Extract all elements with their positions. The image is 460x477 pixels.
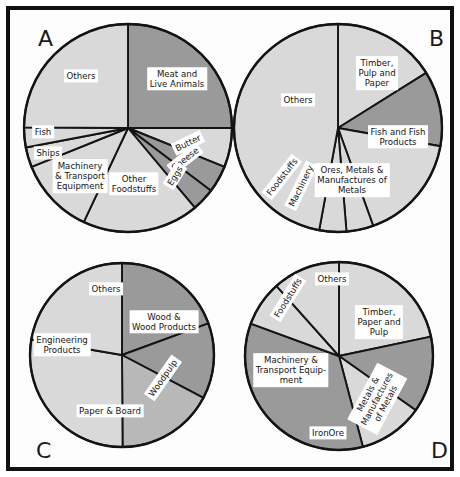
figure-frame: A B C D Meat and Live AnimalsButterChees…	[6, 6, 454, 471]
pie-slice-label: Others	[90, 283, 123, 295]
panel-letter-c: C	[36, 440, 52, 462]
panel-letter-b: B	[429, 28, 445, 50]
pie-slice-label: Meat and Live Animals	[148, 68, 207, 90]
pie-slice-label: Wood & Wood Products	[130, 311, 198, 333]
pie-slice-label: Timber, Pulp and Paper	[356, 57, 397, 90]
pie-slice-label: Ships	[34, 147, 61, 159]
pie-slice-label: Timber, Paper and Pulp	[355, 306, 402, 339]
pie-slice-label: Paper & Board	[77, 405, 143, 417]
pie-slice-label: Machinery & Transport Equipment	[53, 160, 107, 193]
pie-slice-label: IronOre	[310, 427, 346, 439]
pie-slice-label: Other Foodstuffs	[110, 173, 158, 195]
pie-slice-label: Others	[65, 70, 98, 82]
pie-slice-label: Ores, Metals & Manufactures of Metals	[315, 164, 389, 197]
pie-slice-label: Fish	[33, 126, 54, 138]
pie-slice-label: Others	[316, 273, 349, 285]
pie-slice-label: Machinery & Transport Equip- ment	[254, 354, 328, 387]
pie-slice-label: Others	[282, 94, 315, 106]
pie-slice	[234, 24, 338, 230]
panel-letter-d: D	[431, 440, 448, 462]
pie-slice-label: Fish and Fish Products	[369, 126, 428, 148]
pie-slice-label: Engineering Products	[34, 334, 90, 356]
panel-letter-a: A	[38, 28, 54, 50]
figure-root: A B C D Meat and Live AnimalsButterChees…	[0, 0, 460, 477]
